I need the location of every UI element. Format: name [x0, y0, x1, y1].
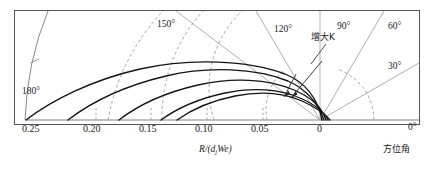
x-tick-label-000: 0	[317, 124, 322, 134]
penetration-curves	[26, 62, 330, 120]
angle-label-60: 60°	[388, 22, 401, 32]
outer-arc-tick	[31, 59, 40, 63]
plot-border	[15, 11, 420, 125]
radial-grid-arcs	[108, 11, 374, 120]
angle-label-180: 180°	[22, 87, 40, 97]
increase-k-annotation: 增大K	[311, 33, 335, 42]
angle-label-90: 90°	[337, 22, 350, 32]
spoke-150	[176, 11, 320, 120]
angle-label-0: 0°	[408, 123, 417, 133]
increase-k-leader	[311, 44, 326, 64]
angle-label-120: 120°	[274, 25, 292, 35]
polar-spokes	[26, 11, 419, 120]
figure-polar-penetration-chart: 180° 150° 120° 90° 60° 30° 0° 增大K 0.25 0…	[0, 0, 434, 169]
x-axis-label-main: R/(d	[199, 144, 215, 154]
x-tick-label-025: 0.25	[22, 124, 40, 134]
radius-arc-090	[209, 11, 242, 120]
angle-label-150: 150°	[157, 20, 175, 30]
outer-radius-arc	[25, 11, 48, 120]
x-tick-label-005: 0.05	[251, 124, 269, 134]
increase-k-leader-line	[311, 44, 326, 64]
spoke-30	[320, 63, 419, 120]
spoke-60	[320, 11, 384, 120]
x-axis-label: R/(djWe)	[199, 145, 232, 156]
x-axis-label-tail: We)	[217, 144, 231, 154]
x-tick-label-015: 0.15	[139, 124, 157, 134]
x-tick-label-010: 0.10	[195, 124, 213, 134]
radius-arc-right	[337, 69, 374, 120]
azimuth-angle-label: 方位角	[383, 145, 410, 154]
x-tick-label-020: 0.20	[83, 124, 101, 134]
curve-k3	[119, 80, 326, 120]
angle-label-30: 30°	[388, 62, 401, 72]
